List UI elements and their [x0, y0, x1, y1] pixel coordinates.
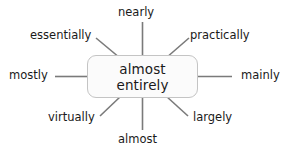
spoke-line-largely	[166, 96, 188, 116]
leaf-label-mainly[interactable]: mainly	[241, 68, 280, 82]
leaf-label-virtually[interactable]: virtually	[48, 110, 95, 124]
leaf-label-mostly[interactable]: mostly	[9, 68, 48, 82]
leaf-label-largely[interactable]: largely	[193, 110, 232, 124]
center-node[interactable]: almost entirely	[87, 55, 198, 98]
center-node-label-line2: entirely	[116, 77, 168, 93]
leaf-label-essentially[interactable]: essentially	[30, 28, 91, 42]
leaf-label-nearly[interactable]: nearly	[118, 5, 154, 19]
leaf-label-practically[interactable]: practically	[190, 28, 250, 42]
center-node-label-line1: almost	[119, 61, 165, 77]
leaf-label-almost[interactable]: almost	[118, 132, 157, 146]
mind-map-diagram: almost entirely nearly practically mainl…	[0, 0, 287, 151]
spoke-line-virtually	[100, 96, 121, 116]
